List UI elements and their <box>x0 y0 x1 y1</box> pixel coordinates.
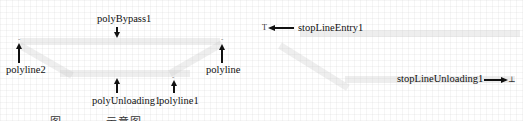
arrow-head-down-icon <box>114 32 120 38</box>
marker-stopLineEntry1: T <box>262 24 267 32</box>
label-polyline: polyline <box>206 65 240 76</box>
arrow-polyUnloading1 <box>116 83 118 93</box>
arrow-polyline2 <box>18 48 20 63</box>
label-stopLineEntry1: stopLineEntry1 <box>298 23 363 34</box>
label-polyline1: polyline1 <box>159 96 199 107</box>
figure-caption: 图 ——— 示意图 <box>50 113 142 121</box>
marker-stopLineUnloading1: ⊥ <box>508 76 516 84</box>
arrow-polyline1 <box>173 85 175 93</box>
road-top-left <box>20 38 220 45</box>
arrow-polyline <box>221 49 223 63</box>
background-grid <box>0 0 523 121</box>
arrow-stopLineUnloading1 <box>484 79 502 81</box>
label-polyBypass1: polyBypass1 <box>97 14 151 25</box>
label-polyUnloading1: polyUnloading1 <box>92 96 160 107</box>
label-stopLineUnloading1: stopLineUnloading1 <box>397 74 483 85</box>
marker-polyline: - <box>221 36 223 43</box>
marker-polyline2: - <box>18 36 20 43</box>
arrow-head-right-icon <box>501 77 508 83</box>
label-polyline2: polyline2 <box>6 65 46 76</box>
arrow-stopLineEntry1 <box>274 27 294 29</box>
